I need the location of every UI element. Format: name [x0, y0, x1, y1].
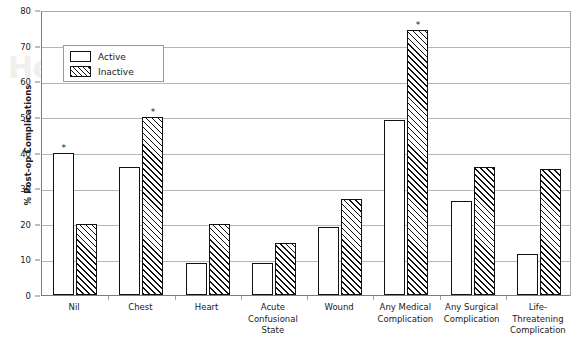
legend-label-active: Active — [98, 52, 126, 62]
y-axis-tick-mark — [35, 82, 40, 83]
significance-marker: * — [61, 144, 66, 153]
y-axis-tick-mark — [35, 153, 40, 154]
x-axis-label-1: Chest — [128, 302, 152, 314]
y-axis-tick-mark — [35, 189, 40, 190]
bar-inactive-3 — [275, 243, 296, 295]
x-axis-label-2: Heart — [195, 302, 219, 314]
gridline — [42, 118, 570, 119]
x-axis-label-6: Any Surgical Complication — [444, 302, 500, 325]
bar-active-6 — [451, 201, 472, 295]
bar-active-0 — [53, 153, 74, 296]
y-axis-tick-label: 50 — [0, 113, 31, 123]
y-axis-tick-mark — [35, 117, 40, 118]
x-axis-separator-tick — [175, 296, 176, 300]
x-axis-separator-tick — [440, 296, 441, 300]
y-axis-tick-mark — [35, 260, 40, 261]
bar-inactive-5 — [407, 30, 428, 295]
y-axis-tick-label: 70 — [0, 42, 31, 52]
y-axis-tick-mark — [35, 46, 40, 47]
significance-marker: * — [416, 21, 421, 30]
bar-inactive-2 — [209, 224, 230, 295]
bar-active-7 — [517, 254, 538, 295]
y-axis-tick-mark — [35, 11, 40, 12]
x-axis-label-3: Acute Confusional State — [248, 302, 298, 337]
legend-item-active: Active — [70, 50, 126, 63]
bar-inactive-0 — [76, 224, 97, 295]
y-axis-tick-label: 30 — [0, 184, 31, 194]
legend: Active Inactive — [63, 45, 164, 82]
legend-label-inactive: Inactive — [98, 67, 134, 77]
bar-inactive-7 — [540, 169, 561, 295]
x-axis-separator-tick — [506, 296, 507, 300]
bar-inactive-6 — [474, 167, 495, 295]
y-axis-tick-label: 60 — [0, 77, 31, 87]
y-axis-tick-mark — [35, 296, 40, 297]
y-axis-tick-label: 20 — [0, 220, 31, 230]
y-axis-tick-label: 10 — [0, 255, 31, 265]
legend-item-inactive: Inactive — [70, 65, 134, 78]
bar-active-3 — [252, 263, 273, 295]
legend-swatch-active — [70, 51, 91, 62]
bar-active-1 — [119, 167, 140, 295]
bar-chart: Health Technology Assessment % Post-op C… — [0, 0, 584, 351]
x-axis-label-5: Any Medical Complication — [378, 302, 434, 325]
x-axis-separator-tick — [241, 296, 242, 300]
bar-active-2 — [186, 263, 207, 295]
x-axis-label-7: Life- Threatening Complication — [510, 302, 566, 337]
y-axis-tick-label: 80 — [0, 6, 31, 16]
y-axis-tick-label: 40 — [0, 149, 31, 159]
x-axis-label-0: Nil — [69, 302, 80, 314]
x-axis-separator-tick — [373, 296, 374, 300]
bar-active-4 — [318, 227, 339, 295]
bar-inactive-4 — [341, 199, 362, 295]
y-axis-tick-mark — [35, 224, 40, 225]
x-axis-label-4: Wound — [324, 302, 353, 314]
bar-active-5 — [384, 120, 405, 295]
y-axis-tick-label: 0 — [0, 291, 31, 301]
legend-swatch-inactive — [70, 66, 91, 77]
gridline — [42, 83, 570, 84]
significance-marker: * — [151, 108, 156, 117]
x-axis-separator-tick — [307, 296, 308, 300]
gridline — [42, 154, 570, 155]
bar-inactive-1 — [142, 117, 163, 295]
x-axis-separator-tick — [108, 296, 109, 300]
